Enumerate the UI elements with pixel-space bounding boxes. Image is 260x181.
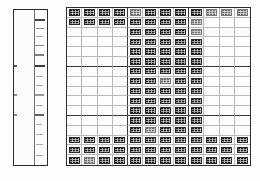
blot-cell (67, 116, 82, 126)
blot-cell (220, 8, 235, 18)
marker-band-fill (35, 19, 45, 21)
blot-mark (160, 117, 171, 123)
blot-mark (206, 147, 217, 153)
blot-mark (160, 48, 171, 54)
blot-mark (145, 19, 156, 25)
blot-cell (189, 145, 204, 155)
blot-mark (175, 48, 186, 54)
marker-band-fill (35, 65, 45, 68)
marker-band (36, 155, 44, 156)
blot-cell (235, 18, 250, 28)
marker-band (35, 94, 43, 95)
blot-mark (130, 19, 141, 25)
blot-cell (143, 28, 158, 38)
blot-mark (206, 137, 217, 143)
blot-cell (143, 106, 158, 116)
lane-divider (34, 10, 35, 165)
blot-cell (128, 37, 143, 47)
blot-cell (235, 96, 250, 106)
blot-cell (220, 96, 235, 106)
blot-mark (160, 58, 171, 64)
blot-mark (175, 29, 186, 35)
blot-cell (113, 106, 128, 116)
blot-grid (67, 8, 250, 165)
blot-cell (159, 47, 174, 57)
blot-mark (114, 147, 125, 153)
blot-mark (237, 157, 249, 164)
blot-mark (145, 127, 156, 133)
marker-band-fill (36, 124, 43, 125)
blot-cell (189, 155, 204, 165)
blot-mark (191, 9, 202, 15)
blot-mark (175, 137, 186, 143)
blot-mark (130, 127, 141, 133)
blot-mark (130, 107, 141, 113)
blot-mark (191, 117, 202, 123)
blot-cell (113, 96, 128, 106)
blot-mark (175, 19, 186, 25)
blot-cell (220, 155, 235, 165)
blot-mark (145, 9, 156, 15)
blot-cell (98, 67, 113, 77)
blot-cell (159, 28, 174, 38)
blot-mark (130, 48, 141, 54)
blot-cell (189, 67, 204, 77)
blot-cell (143, 57, 158, 67)
blot-mark (145, 39, 156, 45)
blot-cell (235, 57, 250, 67)
blot-cell (82, 47, 97, 57)
blot-cell (143, 126, 158, 136)
blot-mark (145, 29, 156, 35)
blot-cell (98, 87, 113, 97)
blot-mark (130, 88, 141, 94)
blot-cell (204, 155, 219, 165)
blot-cell (220, 47, 235, 57)
blot-mark (237, 9, 249, 15)
blot-cell (82, 18, 97, 28)
blot-mark (191, 107, 202, 113)
blot-cell (143, 18, 158, 28)
blot-cell (67, 145, 82, 155)
blot-cell (98, 116, 113, 126)
blot-mark (160, 19, 171, 25)
marker-band (36, 76, 43, 77)
blot-cell (220, 77, 235, 87)
blot-cell (128, 18, 143, 28)
blot-cell (128, 136, 143, 146)
blot-mark (175, 117, 186, 123)
blot-cell (220, 37, 235, 47)
blot-cell (220, 87, 235, 97)
blot-cell (235, 155, 250, 165)
blot-mark (99, 19, 110, 25)
blot-mark (191, 88, 202, 94)
blot-mark (130, 78, 141, 84)
blot-cell (174, 67, 189, 77)
blot-cell (113, 57, 128, 67)
blot-cell (189, 87, 204, 97)
blot-cell (189, 106, 204, 116)
blot-cell (128, 47, 143, 57)
blot-cell (143, 136, 158, 146)
blot-cell (174, 47, 189, 57)
blot-array-panel (66, 7, 251, 166)
marker-band-fill (36, 85, 43, 86)
blot-cell (235, 37, 250, 47)
marker-band-fill (36, 155, 44, 156)
blot-cell (235, 47, 250, 57)
blot-mark (114, 157, 125, 164)
blot-cell (204, 8, 219, 18)
blot-cell (128, 57, 143, 67)
blot-cell (98, 37, 113, 47)
blot-cell (189, 57, 204, 67)
blot-cell (235, 8, 250, 18)
marker-band (36, 36, 43, 37)
blot-cell (159, 37, 174, 47)
blot-cell (174, 28, 189, 38)
blot-cell (82, 96, 97, 106)
blot-cell (189, 77, 204, 87)
blot-cell (174, 106, 189, 116)
blot-cell (189, 126, 204, 136)
blot-cell (113, 77, 128, 87)
blot-mark (114, 19, 125, 25)
blot-cell (189, 47, 204, 57)
